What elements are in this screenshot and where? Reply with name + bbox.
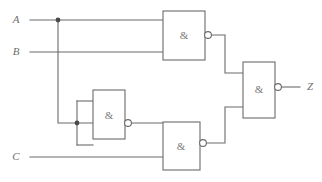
nand-gate-g4: & bbox=[243, 62, 281, 118]
inversion-bubble-icon-g1 bbox=[205, 32, 212, 39]
input-label-a: A bbox=[12, 13, 20, 25]
gate-symbol-label-g4: & bbox=[255, 83, 264, 95]
nand-gate-g3: & bbox=[163, 122, 206, 170]
logic-circuit-diagram: &&&& ABCZ bbox=[0, 0, 322, 182]
wire-G3-out bbox=[206, 107, 243, 143]
nand-gate-g2: & bbox=[93, 90, 131, 139]
input-label-b: B bbox=[13, 45, 20, 57]
inversion-bubble-icon-g3 bbox=[200, 140, 207, 147]
circuit-canvas: &&&& ABCZ bbox=[0, 0, 322, 182]
junction-dot-g2-input-tie bbox=[75, 121, 80, 126]
gate-symbol-label-g3: & bbox=[177, 140, 186, 152]
inversion-bubble-icon-g2 bbox=[125, 120, 132, 127]
nand-gate-g1: & bbox=[163, 11, 211, 60]
junctions-layer bbox=[56, 18, 80, 126]
gate-symbol-label-g2: & bbox=[105, 109, 114, 121]
inversion-bubble-icon-g4 bbox=[275, 84, 282, 91]
wire-A-drop bbox=[58, 20, 93, 123]
gate-symbol-label-g1: & bbox=[180, 29, 189, 41]
gates-layer: &&&& bbox=[93, 11, 281, 170]
input-label-c: C bbox=[12, 150, 20, 162]
output-label-z: Z bbox=[307, 80, 314, 92]
junction-dot-a-branch bbox=[56, 18, 61, 23]
wire-G1-out bbox=[211, 35, 243, 73]
